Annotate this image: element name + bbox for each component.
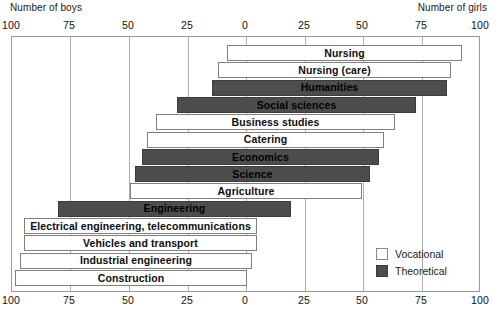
bar-label: Construction [98, 273, 165, 284]
bar-business-studies[interactable]: Business studies [156, 114, 395, 130]
bar-label: Engineering [144, 203, 206, 214]
bar-label: Vehicles and transport [83, 238, 198, 249]
bar-label: Business studies [232, 117, 320, 128]
tick-label-top-7: 75 [415, 19, 427, 31]
axis-ticks-bottom: 1007550250255075100 [0, 294, 498, 307]
legend-label: Vocational [395, 248, 443, 260]
bar-label: Humanities [301, 82, 359, 93]
axis-title-girls: Number of girls [418, 2, 487, 13]
tick-label-bottom-7: 75 [415, 294, 427, 306]
bar-label: Social sciences [257, 100, 337, 111]
axis-ticks-top: 1007550250255075100 [0, 19, 498, 32]
legend-label: Theoretical [395, 265, 447, 277]
bar-label: Catering [244, 134, 287, 145]
tick-label-top-6: 50 [356, 19, 368, 31]
bar-engineering[interactable]: Engineering [58, 201, 291, 217]
bar-industrial-engineering[interactable]: Industrial engineering [20, 253, 252, 269]
tick-label-top-8: 100 [471, 19, 489, 31]
tick-label-bottom-2: 50 [122, 294, 134, 306]
diverging-bar-chart: Number of boys Number of girls 100755025… [0, 0, 498, 317]
legend-swatch-theoretical [376, 265, 388, 277]
tick-label-top-5: 25 [298, 19, 310, 31]
bar-label: Economics [232, 152, 289, 163]
bar-humanities[interactable]: Humanities [212, 80, 447, 96]
bar-label: Agriculture [217, 186, 274, 197]
bar-label: Nursing [324, 48, 364, 59]
bar-label: Nursing (care) [298, 65, 371, 76]
bar-science[interactable]: Science [135, 166, 370, 182]
tick-label-top-0: 100 [2, 19, 20, 31]
bar-vehicles-and-transport[interactable]: Vehicles and transport [24, 235, 257, 251]
tick-label-top-4: 0 [242, 19, 248, 31]
clipped-caption [11, 309, 311, 317]
bar-construction[interactable]: Construction [15, 270, 247, 286]
tick-label-bottom-5: 25 [298, 294, 310, 306]
tick-label-top-3: 25 [181, 19, 193, 31]
legend-item-vocational[interactable]: Vocational [376, 245, 472, 262]
axis-title-boys: Number of boys [10, 2, 82, 13]
tick-label-bottom-6: 50 [356, 294, 368, 306]
tick-label-bottom-0: 100 [2, 294, 20, 306]
bar-economics[interactable]: Economics [142, 149, 379, 165]
bar-label: Science [232, 169, 272, 180]
bar-nursing-care[interactable]: Nursing (care) [218, 62, 451, 78]
bar-label: Industrial engineering [80, 255, 192, 266]
tick-label-top-1: 75 [63, 19, 75, 31]
legend-swatch-vocational [376, 248, 388, 260]
bar-electrical-engineering-telecommunications[interactable]: Electrical engineering, telecommunicatio… [24, 218, 257, 234]
tick-label-bottom-8: 100 [471, 294, 489, 306]
bar-catering[interactable]: Catering [147, 132, 384, 148]
bar-agriculture[interactable]: Agriculture [130, 183, 362, 199]
tick-label-bottom-1: 75 [63, 294, 75, 306]
bar-label: Electrical engineering, telecommunicatio… [30, 221, 251, 232]
bar-social-sciences[interactable]: Social sciences [177, 97, 416, 113]
legend: VocationalTheoretical [376, 245, 472, 279]
legend-item-theoretical[interactable]: Theoretical [376, 262, 472, 279]
tick-label-top-2: 50 [122, 19, 134, 31]
tick-label-bottom-4: 0 [242, 294, 248, 306]
bar-nursing[interactable]: Nursing [227, 45, 462, 61]
tick-label-bottom-3: 25 [181, 294, 193, 306]
